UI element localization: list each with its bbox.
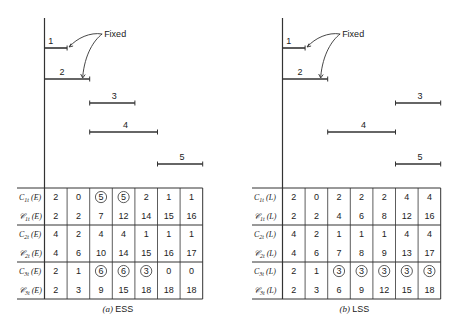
fixed-annotation: Fixed bbox=[104, 29, 126, 39]
table-cell: 2 bbox=[53, 192, 58, 202]
activity-label: 3 bbox=[418, 91, 423, 101]
row-label: C2t(L) bbox=[254, 230, 276, 240]
row-label: 𝒞3t(L) bbox=[254, 286, 277, 296]
activity-label: 4 bbox=[361, 120, 366, 130]
row-label-subscript: 3t bbox=[23, 271, 29, 277]
table-cell: 9 bbox=[382, 248, 387, 258]
fixed-arrow-2 bbox=[83, 34, 102, 77]
activity-bar-1: 1 bbox=[283, 36, 306, 51]
fixed-annotation: Fixed bbox=[342, 29, 364, 39]
table-row: 𝒞3t(E)23915181818 bbox=[19, 285, 196, 296]
activity-bar-3: 3 bbox=[90, 91, 135, 106]
table-cell: 2 bbox=[76, 211, 81, 221]
row-label-subscript: 2t bbox=[24, 234, 29, 240]
panel-caption: (b) LSS bbox=[339, 304, 369, 314]
table-cell: 1 bbox=[166, 229, 171, 239]
caption-prefix: (b) bbox=[339, 304, 352, 314]
table-row: C2t(L)4211144 bbox=[254, 229, 432, 240]
table-cell: 2 bbox=[359, 192, 364, 202]
table-cell: 8 bbox=[382, 211, 387, 221]
table-cell: 17 bbox=[186, 248, 196, 258]
table-cell: 16 bbox=[186, 211, 196, 221]
table-cell: 12 bbox=[379, 285, 389, 295]
row-label-subscript: 1t bbox=[24, 197, 29, 203]
table-cell: 15 bbox=[119, 285, 129, 295]
table-cell: 7 bbox=[98, 211, 103, 221]
table-cell: 4 bbox=[336, 211, 341, 221]
table-row: 𝒞3t(L)2369121518 bbox=[254, 285, 434, 296]
table-cell: 3 bbox=[314, 285, 319, 295]
table-row: 𝒞1t(E)22712141516 bbox=[19, 211, 196, 222]
panel-caption: (a) ESS bbox=[102, 304, 133, 314]
fixed-arrow-1 bbox=[307, 34, 340, 47]
table-cell: 3 bbox=[404, 266, 409, 276]
table-cell: 6 bbox=[336, 285, 341, 295]
table-cell: 9 bbox=[98, 285, 103, 295]
row-label-subscript: 1t bbox=[25, 216, 30, 222]
caption-prefix: (a) bbox=[102, 304, 115, 314]
table-cell: 2 bbox=[53, 285, 58, 295]
row-label-subscript: 1t bbox=[259, 197, 264, 203]
row-label: C1t(E) bbox=[19, 193, 42, 203]
table-cell: 6 bbox=[121, 266, 126, 276]
table-cell: 2 bbox=[336, 192, 341, 202]
table-cell: 2 bbox=[53, 211, 58, 221]
table-cell: 4 bbox=[427, 229, 432, 239]
table-cell: 1 bbox=[144, 229, 149, 239]
row-label-argument: (L) bbox=[267, 212, 277, 221]
panel-ess: 12345FixedC1t(E)2055211𝒞1t(E)22712141516… bbox=[17, 18, 203, 314]
row-label-argument: (L) bbox=[267, 286, 277, 295]
row-label-argument: (L) bbox=[266, 193, 276, 202]
row-label: C2t(E) bbox=[19, 230, 42, 240]
activity-label: 2 bbox=[298, 67, 303, 77]
table-cell: 18 bbox=[186, 285, 196, 295]
table-cell: 5 bbox=[121, 192, 126, 202]
row-label-subscript: 3t bbox=[259, 290, 265, 296]
table-cell: 18 bbox=[141, 285, 151, 295]
table-cell: 3 bbox=[427, 266, 432, 276]
table-cell: 15 bbox=[141, 248, 151, 258]
row-label-subscript: 3t bbox=[24, 290, 30, 296]
table-cell: 0 bbox=[76, 192, 81, 202]
table-cell: 3 bbox=[359, 266, 364, 276]
row-label: C1t(L) bbox=[254, 193, 276, 203]
table-cell: 0 bbox=[166, 266, 171, 276]
table-cell: 2 bbox=[314, 229, 319, 239]
table-cell: 15 bbox=[402, 285, 412, 295]
row-label-argument: (L) bbox=[266, 267, 276, 276]
activity-label: 5 bbox=[180, 152, 185, 162]
table-cell: 6 bbox=[76, 248, 81, 258]
fixed-arrow-2 bbox=[321, 34, 340, 77]
row-label-subscript: 2t bbox=[259, 234, 264, 240]
resource-table: C1t(L)2022244𝒞1t(L)224681216C2t(L)421114… bbox=[252, 188, 441, 299]
table-cell: 5 bbox=[98, 192, 103, 202]
row-label-argument: (E) bbox=[32, 249, 43, 258]
activity-label: 5 bbox=[418, 152, 423, 162]
table-cell: 1 bbox=[336, 229, 341, 239]
table-cell: 1 bbox=[76, 266, 81, 276]
table-cell: 1 bbox=[189, 192, 194, 202]
row-label: 𝒞3t(E) bbox=[19, 286, 42, 296]
table-cell: 6 bbox=[314, 248, 319, 258]
table-cell: 3 bbox=[144, 266, 149, 276]
schedule-figure: 12345FixedC1t(E)2055211𝒞1t(E)22712141516… bbox=[0, 0, 456, 319]
row-label: C3t(L) bbox=[254, 267, 276, 277]
row-label: 𝒞2t(E) bbox=[19, 249, 42, 259]
table-cell: 9 bbox=[359, 285, 364, 295]
table-cell: 1 bbox=[314, 266, 319, 276]
activity-bar-3: 3 bbox=[396, 91, 441, 106]
table-cell: 2 bbox=[314, 211, 319, 221]
row-label-argument: (L) bbox=[267, 249, 277, 258]
table-cell: 8 bbox=[359, 248, 364, 258]
row-label-argument: (E) bbox=[31, 193, 42, 202]
row-label: 𝒞1t(E) bbox=[19, 212, 42, 222]
table-row: 𝒞2t(E)461014151617 bbox=[19, 248, 196, 259]
table-cell: 3 bbox=[382, 266, 387, 276]
table-cell: 4 bbox=[291, 248, 296, 258]
table-cell: 2 bbox=[382, 192, 387, 202]
row-label-argument: (E) bbox=[32, 212, 43, 221]
table-cell: 0 bbox=[314, 192, 319, 202]
table-cell: 4 bbox=[121, 229, 126, 239]
table-cell: 1 bbox=[382, 229, 387, 239]
activity-bar-5: 5 bbox=[396, 152, 441, 167]
